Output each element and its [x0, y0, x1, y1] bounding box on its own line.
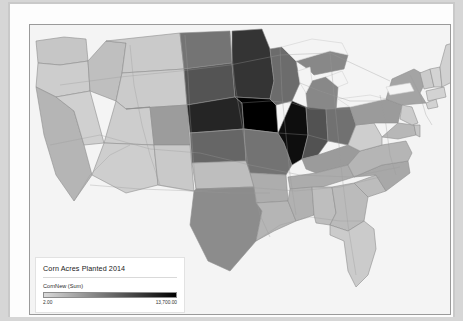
map-viewport[interactable]: Corn Acres Planted 2014 CornNew (Sum) 2.…: [29, 24, 451, 315]
legend-max-value: 13,700.00: [156, 300, 177, 305]
state-kansas[interactable]: [190, 129, 246, 163]
application-frame: Corn Acres Planted 2014 CornNew (Sum) 2.…: [0, 0, 463, 321]
legend-min-value: 2.00: [43, 300, 52, 305]
legend-scale: 2.00 13,700.00: [43, 300, 177, 305]
state-wyoming[interactable]: [116, 69, 187, 109]
state-alabama[interactable]: [312, 187, 336, 225]
legend-field-label: CornNew (Sum): [43, 283, 177, 289]
state-oklahoma[interactable]: [192, 161, 254, 189]
legend-color-ramp: [43, 292, 177, 298]
map-legend[interactable]: Corn Acres Planted 2014 CornNew (Sum) 2.…: [35, 257, 185, 313]
report-panel: Corn Acres Planted 2014 CornNew (Sum) 2.…: [10, 4, 453, 317]
state-washington[interactable]: [36, 37, 88, 65]
state-north-dakota[interactable]: [180, 31, 232, 69]
legend-title: Corn Acres Planted 2014: [43, 264, 177, 278]
